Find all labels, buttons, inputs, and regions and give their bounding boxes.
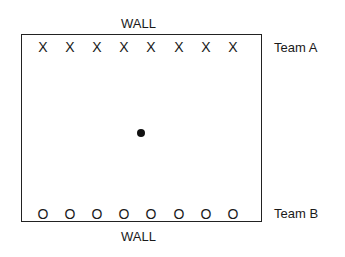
team-a-player: X	[36, 40, 50, 54]
playing-field: X X X X X X X X O O O O O O O O	[21, 34, 262, 222]
team-a-player: X	[90, 40, 104, 54]
team-a-player: X	[144, 40, 158, 54]
team-a-label: Team A	[274, 41, 317, 54]
team-a-player: X	[172, 40, 186, 54]
bottom-wall-label: WALL	[121, 230, 156, 243]
team-b-row: O O O O O O O O	[22, 207, 261, 221]
team-b-label: Team B	[274, 207, 318, 220]
team-b-player: O	[117, 207, 131, 221]
team-b-player: O	[226, 207, 240, 221]
ball-icon	[137, 129, 145, 137]
team-a-player: X	[63, 40, 77, 54]
team-b-player: O	[63, 207, 77, 221]
team-b-player: O	[199, 207, 213, 221]
team-b-player: O	[172, 207, 186, 221]
team-b-player: O	[144, 207, 158, 221]
team-a-player: X	[199, 40, 213, 54]
team-a-player: X	[117, 40, 131, 54]
team-a-player: X	[226, 40, 240, 54]
team-b-player: O	[36, 207, 50, 221]
team-a-row: X X X X X X X X	[22, 40, 261, 54]
team-b-player: O	[90, 207, 104, 221]
top-wall-label: WALL	[121, 17, 156, 30]
